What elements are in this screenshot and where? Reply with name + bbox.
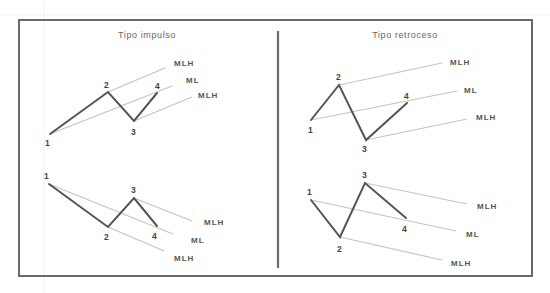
chart-retracement-up: 1 2 3 4 MLH ML MLH	[308, 58, 496, 154]
line-label-lower-mlh: MLH	[451, 259, 471, 268]
line-label-ml: ML	[466, 230, 480, 239]
line-label-upper-mlh: MLH	[204, 218, 224, 227]
line-label-lower-mlh: MLH	[476, 113, 496, 122]
point-label: 1	[44, 171, 49, 181]
panel-title-impulse: Tipo impulso	[118, 30, 176, 40]
point-label: 4	[404, 91, 409, 101]
point-label: 2	[104, 232, 109, 242]
point-label: 4	[155, 81, 160, 91]
line-label-upper-mlh: MLH	[174, 59, 194, 68]
point-label: 4	[402, 224, 407, 234]
median-line	[49, 184, 173, 234]
point-label: 1	[308, 125, 313, 135]
point-label: 3	[362, 170, 367, 180]
median-line	[50, 86, 172, 134]
price-wave	[311, 85, 407, 140]
point-label: 2	[336, 72, 341, 82]
line-label-ml: ML	[464, 86, 478, 95]
median-line	[311, 91, 457, 120]
point-label: 1	[45, 138, 50, 148]
median-line-diagram: Tipo impulso Tipo retroceso 1 2 3 4 MLH …	[0, 0, 550, 293]
point-label: 2	[104, 80, 109, 90]
point-label: 4	[152, 231, 157, 241]
point-label: 1	[307, 187, 312, 197]
line-label-upper-mlh: MLH	[477, 202, 497, 211]
line-label-ml: ML	[186, 76, 200, 85]
line-label-upper-mlh: MLH	[450, 58, 470, 67]
point-label: 3	[131, 127, 136, 137]
chart-retracement-down: 1 2 3 4 MLH ML MLH	[307, 170, 497, 268]
panel-title-retracement: Tipo retroceso	[372, 30, 438, 40]
point-label: 3	[362, 144, 367, 154]
upper-mlh-line	[365, 183, 467, 204]
chart-impulse-down: 1 2 3 4 MLH ML MLH	[44, 171, 224, 263]
chart-impulse-up: 1 2 3 4 MLH ML MLH	[45, 59, 218, 148]
point-label: 3	[131, 185, 136, 195]
line-label-lower-mlh: MLH	[174, 254, 194, 263]
lower-mlh-line	[340, 237, 442, 260]
point-label: 2	[337, 244, 342, 254]
line-label-lower-mlh: MLH	[198, 91, 218, 100]
upper-mlh-line	[339, 63, 442, 85]
line-label-ml: ML	[191, 236, 205, 245]
lower-mlh-line	[366, 119, 467, 140]
